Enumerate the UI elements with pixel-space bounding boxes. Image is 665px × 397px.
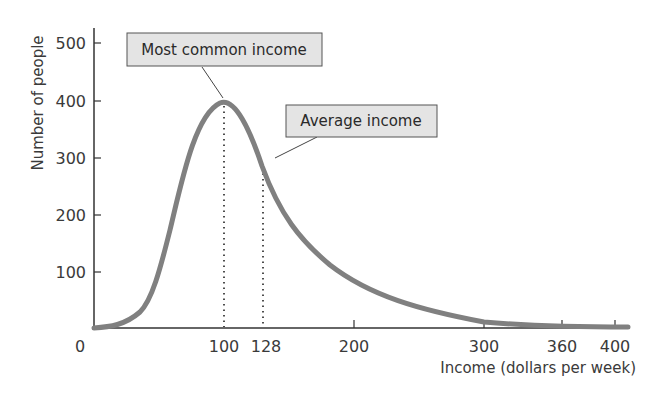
callout-average-label: Average income — [300, 112, 421, 130]
y-tick-300: 300 — [55, 149, 86, 168]
y-ticks — [94, 43, 101, 272]
x-tick-360: 360 — [547, 337, 578, 356]
y-tick-400: 400 — [55, 92, 86, 111]
callout-leader-line — [202, 67, 223, 98]
x-tick-labels: 0 100 128 200 300 360 400 — [75, 337, 630, 356]
x-tick-0: 0 — [75, 337, 85, 356]
y-tick-500: 500 — [55, 34, 86, 53]
x-tick-400: 400 — [600, 337, 631, 356]
y-tick-labels: 500 400 300 200 100 — [55, 34, 86, 282]
income-distribution-chart: 500 400 300 200 100 0 100 128 200 300 36… — [0, 0, 665, 397]
y-tick-200: 200 — [55, 206, 86, 225]
x-tick-200: 200 — [339, 337, 370, 356]
callout-most-common-label: Most common income — [141, 41, 307, 59]
x-tick-100: 100 — [209, 337, 240, 356]
y-tick-100: 100 — [55, 263, 86, 282]
callout-most-common-income: Most common income — [127, 33, 322, 98]
y-axis-title: Number of people — [29, 35, 47, 170]
callout-leader-line — [275, 137, 317, 158]
callout-average-income: Average income — [275, 105, 437, 158]
x-tick-128: 128 — [251, 337, 282, 356]
x-tick-300: 300 — [469, 337, 500, 356]
x-axis-title: Income (dollars per week) — [440, 359, 636, 377]
